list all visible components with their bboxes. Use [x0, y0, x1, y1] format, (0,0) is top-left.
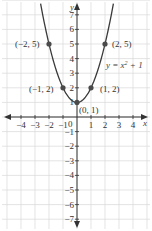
x-tick-label: 2 [103, 120, 108, 130]
grid [2, 0, 150, 231]
y-tick-label: 2 [70, 83, 75, 93]
y-axis-up-arrow-icon [74, 3, 80, 10]
y-tick-label: −5 [64, 185, 74, 195]
y-tick-label: 4 [70, 54, 75, 64]
parabola-chart: −4−3−2−112342345671−1−2−3−4−5−6−7 y x 0 … [0, 0, 152, 231]
y-tick-label: −7 [64, 214, 74, 224]
point-label-neg1-2: (−1, 2) [29, 84, 54, 94]
data-point [60, 85, 65, 90]
y-axis-label: y [69, 2, 74, 12]
equation-label: y = x2 + 1 [105, 60, 143, 70]
y-tick-label: −2 [64, 141, 74, 151]
x-tick-label: −2 [44, 120, 54, 130]
data-point [102, 41, 107, 46]
point-label-0-1: (0, 1) [79, 105, 99, 115]
x-tick-label: 4 [131, 120, 136, 130]
y-tick-label: −3 [64, 156, 74, 166]
data-point [88, 85, 93, 90]
point-label-1-2: (1, 2) [100, 84, 120, 94]
point-label-neg2-5: (−2, 5) [15, 39, 40, 49]
y-tick-label: 3 [70, 68, 75, 78]
data-point [46, 41, 51, 46]
x-axis-label: x [142, 118, 147, 128]
y-axis-down-arrow-icon [74, 221, 80, 228]
x-tick-label: −4 [16, 120, 26, 130]
y-tick-label: 5 [70, 39, 75, 49]
x-tick-label: 3 [117, 120, 122, 130]
origin-label: 0 [68, 119, 73, 129]
x-axis-left-arrow-icon [4, 114, 11, 120]
y-tick-label: −6 [64, 200, 74, 210]
x-tick-label: 1 [89, 120, 94, 130]
axes [4, 3, 148, 228]
y-tick-label: 6 [70, 24, 75, 34]
point-label-2-5: (2, 5) [112, 39, 132, 49]
x-tick-label: −3 [30, 120, 40, 130]
y-tick-label: −4 [64, 170, 74, 180]
